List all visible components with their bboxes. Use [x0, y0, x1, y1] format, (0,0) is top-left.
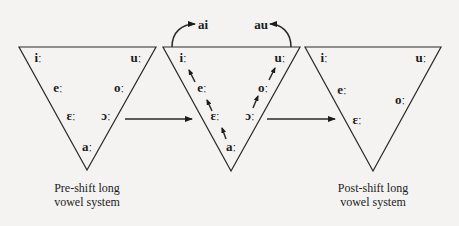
vowel-open-e: ɛː	[352, 112, 361, 127]
vowel-i: iː	[320, 50, 327, 65]
caption-pre-shift-line1: Pre-shift long	[54, 181, 120, 195]
raise-arrow-icon	[253, 96, 258, 108]
vowel-e: eː	[337, 82, 346, 97]
vowel-i: iː	[34, 50, 41, 65]
vowel-open-o: ɔː	[245, 108, 254, 123]
vowel-shift-diagram: iː uː eː oː ɛː ɔː aː Pre-shift long vowe…	[0, 0, 459, 226]
vowel-open-o: ɔː	[101, 108, 110, 123]
vowel-o: oː	[114, 80, 124, 95]
vowel-u: uː	[275, 50, 286, 65]
post-shift-triangle: iː uː eː oː ɛː Post-shift long vowel sys…	[305, 47, 441, 209]
vowel-u: uː	[416, 50, 427, 65]
vowel-open-e: ɛː	[66, 108, 75, 123]
caption-post-shift-line2: vowel system	[340, 195, 406, 209]
diphthong-ai: ai	[198, 17, 209, 32]
shift-triangle: iː uː eː oː ɛː ɔː aː ai au	[163, 17, 300, 171]
vowel-u: uː	[131, 50, 142, 65]
raise-arrow-icon	[222, 128, 226, 139]
raise-arrow-icon	[269, 68, 275, 80]
vowel-e: eː	[53, 80, 62, 95]
vowel-a: aː	[82, 139, 92, 154]
diphthong-arrow-ai-icon	[172, 24, 195, 47]
pre-shift-triangle: iː uː eː oː ɛː ɔː aː Pre-shift long vowe…	[19, 47, 156, 209]
vowel-o: oː	[395, 92, 405, 107]
vowel-i: iː	[179, 50, 186, 65]
raise-arrow-icon	[189, 70, 195, 82]
caption-post-shift-line1: Post-shift long	[338, 181, 408, 195]
caption-pre-shift-line2: vowel system	[54, 195, 120, 209]
vowel-o: oː	[258, 80, 268, 95]
diphthong-arrow-au-icon	[270, 24, 291, 47]
diphthong-au: au	[254, 17, 268, 32]
vowel-e: eː	[197, 80, 206, 95]
vowel-a: aː	[226, 139, 236, 154]
triangle-outline	[305, 47, 441, 171]
